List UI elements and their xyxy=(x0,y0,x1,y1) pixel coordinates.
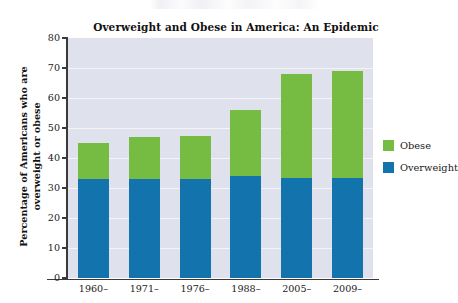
y-axis-tick-label: 0 xyxy=(2,272,60,283)
bar-segment-overweight xyxy=(332,178,363,279)
gridline xyxy=(68,248,373,249)
y-axis-tick-mark xyxy=(62,157,67,158)
gridline xyxy=(68,158,373,159)
bar-stack xyxy=(129,137,160,278)
gridline xyxy=(68,68,373,69)
x-axis-tick-label: 2009– xyxy=(322,283,373,294)
y-axis-tick-mark xyxy=(62,37,67,38)
gridline xyxy=(68,128,373,129)
y-axis-tick-mark xyxy=(62,247,67,248)
x-axis-tick-label: 1988– xyxy=(221,283,272,294)
y-axis-tick-label: 80 xyxy=(2,32,60,43)
bar-segment-obese xyxy=(180,136,211,180)
gridline xyxy=(68,98,373,99)
x-axis-tick-label: 1976– xyxy=(170,283,221,294)
bar-segment-obese xyxy=(78,143,109,179)
legend-swatch-icon xyxy=(383,140,394,151)
bar-segment-obese xyxy=(230,110,261,176)
bar-segment-overweight xyxy=(129,179,160,278)
y-axis-tick-label: 70 xyxy=(2,62,60,73)
y-axis-tick-mark xyxy=(62,187,67,188)
y-axis-tick-label: 10 xyxy=(2,242,60,253)
bar-segment-obese xyxy=(129,137,160,179)
x-axis-tick-label: 1960– xyxy=(68,283,119,294)
cropped-caption-ghost xyxy=(150,0,320,9)
bar-segment-overweight xyxy=(78,179,109,278)
bar-segment-overweight xyxy=(230,176,261,278)
bar-segment-overweight xyxy=(281,178,312,279)
y-axis-tick-label: 30 xyxy=(2,182,60,193)
bar-stack xyxy=(332,71,363,278)
bar-stack xyxy=(281,74,312,278)
legend-swatch-icon xyxy=(383,162,394,173)
bar-stack xyxy=(78,143,109,278)
plot-area xyxy=(68,38,373,278)
y-axis-tick-mark xyxy=(62,97,67,98)
gridline xyxy=(68,218,373,219)
y-axis-tick-label: 50 xyxy=(2,122,60,133)
x-axis-tick-label: 1971– xyxy=(119,283,170,294)
bar-segment-obese xyxy=(332,71,363,178)
y-axis-tick-mark xyxy=(62,67,67,68)
bar-stack xyxy=(180,136,211,279)
legend-item: Obese xyxy=(383,140,458,151)
y-axis-tick-mark xyxy=(62,127,67,128)
x-axis-tick-label: 2005– xyxy=(271,283,322,294)
legend-label: Obese xyxy=(400,140,431,151)
gridline xyxy=(68,188,373,189)
chart-legend: ObeseOverweight xyxy=(383,140,458,184)
y-axis-tick-label: 60 xyxy=(2,92,60,103)
x-axis-line xyxy=(47,279,379,281)
bar-segment-overweight xyxy=(180,179,211,278)
y-axis-tick-mark xyxy=(62,217,67,218)
bar-segment-obese xyxy=(281,74,312,178)
legend-item: Overweight xyxy=(383,162,458,173)
y-axis-tick-mark xyxy=(62,277,67,278)
chart-title: Overweight and Obese in America: An Epid… xyxy=(0,21,454,33)
legend-label: Overweight xyxy=(400,162,458,173)
y-axis-tick-label: 20 xyxy=(2,212,60,223)
y-axis-tick-label: 40 xyxy=(2,152,60,163)
bar-stack xyxy=(230,110,261,278)
